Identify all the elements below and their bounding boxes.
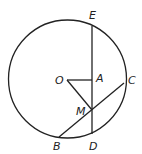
label-A: A [95,72,104,85]
geometry-diagram: O A E D M B C [0,0,142,154]
label-M: M [76,105,86,118]
label-C: C [128,74,136,87]
label-E: E [89,9,96,22]
circle [9,20,127,138]
label-O: O [55,74,64,87]
label-D: D [89,140,97,153]
label-B: B [53,140,61,153]
